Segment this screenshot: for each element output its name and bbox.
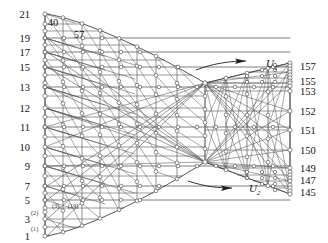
mesh-node	[245, 176, 248, 179]
mesh-node	[80, 179, 84, 183]
mesh-node	[80, 22, 84, 26]
mesh-node	[233, 85, 237, 89]
top-label-40: 40	[48, 17, 59, 28]
mesh-node	[43, 135, 47, 139]
mesh-node	[288, 128, 292, 132]
mesh-node	[43, 29, 47, 33]
mesh-node	[62, 50, 66, 54]
left-axis-label-9: 9	[25, 161, 30, 172]
mesh-node	[100, 65, 104, 69]
left-axis-label-17: 17	[20, 47, 31, 58]
mesh-node	[224, 168, 228, 172]
right-axis-label-145: 145	[300, 187, 316, 198]
mesh-node	[157, 65, 161, 69]
mesh-node	[245, 92, 249, 96]
mesh-node	[80, 156, 84, 160]
mesh-node	[43, 217, 47, 221]
mesh-node	[62, 198, 66, 202]
mesh-node	[135, 103, 139, 107]
mesh-node	[117, 79, 121, 83]
mesh-node	[138, 198, 142, 202]
mesh-node	[98, 217, 102, 221]
mesh-node	[98, 133, 102, 137]
mesh-node	[98, 175, 102, 179]
mesh-node	[61, 209, 65, 213]
mesh-node	[157, 125, 161, 129]
mesh-node	[195, 164, 199, 168]
mesh-node	[62, 85, 66, 89]
mesh-node	[252, 125, 256, 129]
mesh-node	[176, 125, 180, 129]
mesh-node	[43, 94, 47, 98]
right-axis-label-150: 150	[300, 145, 316, 156]
mesh-node	[119, 65, 123, 69]
mesh-node	[195, 125, 199, 129]
mesh-node	[245, 80, 248, 83]
mesh-node	[266, 137, 270, 141]
mesh-node	[273, 74, 276, 77]
mesh-node	[43, 154, 47, 158]
mesh-node	[43, 191, 47, 195]
mesh-node	[214, 164, 218, 168]
mesh-node	[135, 160, 139, 164]
mesh-node	[135, 45, 139, 49]
mesh-node	[245, 170, 248, 173]
mesh-node	[273, 182, 276, 185]
mesh-node	[81, 65, 85, 69]
mesh-node	[288, 166, 292, 170]
mesh-node	[252, 164, 256, 168]
mesh-node	[43, 225, 47, 229]
mesh-node	[233, 164, 237, 168]
left-axis-label-10: 10	[20, 142, 31, 153]
mesh-node	[203, 94, 207, 98]
right-axis-label-151: 151	[300, 125, 316, 136]
mesh-node	[138, 164, 142, 168]
mesh-node	[175, 81, 179, 85]
mesh-node	[266, 184, 270, 188]
left-axis-label-7: 7	[25, 181, 30, 192]
right-axis-label-group: 157155153152151150149147145	[300, 61, 316, 198]
mesh-node	[138, 184, 142, 188]
mesh-node	[154, 93, 158, 97]
mesh-node	[100, 125, 104, 129]
mesh-node	[43, 184, 47, 188]
mesh-node	[62, 125, 66, 129]
mesh-node	[100, 164, 104, 168]
mesh-node	[273, 80, 276, 83]
mesh-node	[203, 81, 207, 85]
mesh-node	[43, 210, 47, 214]
mesh-node	[62, 164, 66, 168]
mesh-node	[119, 85, 123, 89]
mesh-node	[62, 36, 66, 40]
mesh-node	[288, 179, 292, 183]
mesh-node	[81, 184, 85, 188]
mesh-node	[80, 112, 84, 116]
mesh-node	[203, 160, 207, 164]
mesh-node	[233, 125, 237, 129]
mesh-node	[175, 145, 179, 149]
mesh-node	[260, 80, 263, 83]
mesh-node	[260, 74, 263, 77]
mesh-node	[43, 85, 47, 89]
mesh-node	[43, 174, 47, 178]
mesh-node	[260, 182, 263, 185]
mesh-node	[175, 113, 179, 117]
mesh-node	[43, 36, 47, 40]
mesh-node	[98, 70, 102, 74]
mesh-node	[61, 102, 65, 106]
mesh-node	[175, 129, 179, 133]
mesh-node	[43, 43, 47, 47]
finite-element-mesh-diagram: 211917151312111097531 157155153152151150…	[0, 0, 328, 243]
mesh-node	[100, 184, 104, 188]
mesh-node	[43, 65, 47, 69]
mesh-node	[81, 198, 85, 202]
mesh-node	[100, 36, 104, 40]
mesh-node	[43, 81, 47, 85]
mesh-node	[80, 134, 84, 138]
mesh-node	[61, 144, 65, 148]
right-axis-label-147: 147	[300, 175, 316, 186]
mesh-node	[203, 107, 207, 111]
mesh-node	[119, 125, 123, 129]
mesh-node	[154, 150, 158, 154]
flow-arrow-u1-subscript: 1	[274, 64, 278, 72]
